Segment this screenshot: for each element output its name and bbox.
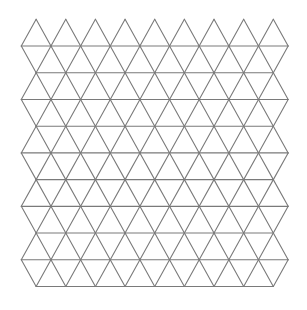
grid-line — [214, 19, 229, 46]
grid-line — [125, 233, 140, 260]
grid-line — [110, 206, 125, 233]
grid-line — [229, 233, 244, 260]
grid-line — [244, 180, 259, 207]
grid-line — [110, 19, 125, 46]
grid-line — [273, 260, 288, 287]
grid-line — [81, 126, 96, 153]
grid-line — [199, 180, 214, 207]
grid-line — [125, 260, 140, 287]
grid-line — [95, 260, 110, 287]
grid-line — [21, 99, 36, 126]
grid-line — [21, 180, 36, 207]
grid-line — [140, 73, 155, 100]
grid-line — [125, 153, 140, 180]
grid-line — [155, 126, 170, 153]
grid-line — [95, 46, 110, 73]
grid-line — [51, 46, 66, 73]
grid-line — [259, 46, 274, 73]
grid-line — [51, 126, 66, 153]
grid-line — [214, 73, 229, 100]
grid-line — [36, 73, 51, 100]
grid-line — [51, 73, 66, 100]
grid-line — [170, 126, 185, 153]
grid-line — [184, 180, 199, 207]
grid-line — [125, 206, 140, 233]
grid-line — [21, 233, 36, 260]
grid-line — [155, 260, 170, 287]
grid-line — [140, 180, 155, 207]
grid-line — [229, 206, 244, 233]
grid-line — [36, 206, 51, 233]
grid-line — [140, 233, 155, 260]
grid-line — [214, 126, 229, 153]
grid-line — [273, 206, 288, 233]
grid-line — [214, 180, 229, 207]
grid-line — [36, 46, 51, 73]
grid-line — [273, 153, 288, 180]
grid-line — [140, 153, 155, 180]
grid-line — [273, 233, 288, 260]
grid-line — [244, 153, 259, 180]
grid-line — [81, 99, 96, 126]
grid-line — [21, 19, 36, 46]
grid-line — [81, 46, 96, 73]
grid-line — [244, 46, 259, 73]
grid-line — [81, 260, 96, 287]
grid-line — [199, 233, 214, 260]
grid-line — [184, 99, 199, 126]
grid-line — [229, 46, 244, 73]
grid-line — [259, 73, 274, 100]
grid-line — [229, 260, 244, 287]
grid-line — [259, 153, 274, 180]
grid-line — [81, 19, 96, 46]
grid-line — [95, 99, 110, 126]
grid-line — [184, 260, 199, 287]
grid-line — [244, 126, 259, 153]
grid-line — [81, 180, 96, 207]
grid-line — [155, 73, 170, 100]
grid-line — [21, 206, 36, 233]
grid-line — [259, 260, 274, 287]
grid-line — [170, 73, 185, 100]
grid-line — [184, 233, 199, 260]
grid-line — [184, 206, 199, 233]
grid-line — [184, 73, 199, 100]
grid-line — [155, 19, 170, 46]
grid-line — [95, 206, 110, 233]
grid-line — [155, 206, 170, 233]
grid-line — [140, 46, 155, 73]
grid-line — [214, 46, 229, 73]
grid-line — [95, 126, 110, 153]
grid-line — [214, 233, 229, 260]
grid-line — [51, 260, 66, 287]
grid-line — [95, 233, 110, 260]
grid-line — [140, 19, 155, 46]
grid-line — [170, 46, 185, 73]
grid-line — [229, 180, 244, 207]
grid-line — [125, 46, 140, 73]
grid-line — [140, 260, 155, 287]
grid-line — [229, 153, 244, 180]
grid-line — [170, 233, 185, 260]
grid-line — [66, 19, 81, 46]
grid-line — [140, 99, 155, 126]
grid-line — [36, 153, 51, 180]
grid-line — [36, 233, 51, 260]
triangle-grid-canvas — [0, 0, 307, 310]
grid-line — [81, 153, 96, 180]
grid-line — [110, 126, 125, 153]
grid-line — [170, 260, 185, 287]
grid-line — [155, 233, 170, 260]
grid-line — [66, 153, 81, 180]
grid-line — [51, 153, 66, 180]
grid-line — [170, 19, 185, 46]
grid-line — [66, 180, 81, 207]
grid-line — [214, 99, 229, 126]
grid-line — [21, 260, 36, 287]
grid-line — [51, 233, 66, 260]
grid-line — [66, 46, 81, 73]
grid-line — [21, 153, 36, 180]
grid-line — [229, 73, 244, 100]
grid-line — [110, 99, 125, 126]
grid-line — [273, 126, 288, 153]
